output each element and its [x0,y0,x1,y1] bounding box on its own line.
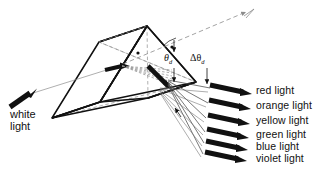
ray-arrow-blue [206,141,248,152]
ray-label-green: green light [256,128,306,140]
white-light-label: white light [10,108,36,133]
ray-arrow-orange [209,100,251,111]
dispersion-diagram: white light θd Δθd red light orange ligh… [0,0,320,182]
undeviated-ray-arrowhead [244,9,254,18]
ray-label-blue: blue light [256,140,299,152]
ray-arrow-green [207,129,249,140]
emerging-rays-group [160,80,252,163]
ray-label-orange: orange light [256,99,312,111]
theta-subscript: d [169,58,172,65]
deviation-angle-label: θd [164,52,172,65]
ray-arrow-violet [205,152,247,163]
incident-ray-line [30,67,116,94]
construction-dot-upper [136,51,139,54]
emerging-ray-line-violet [168,85,203,154]
ray-label-red: red light [256,84,294,96]
delta-theta-symbol: Δθ [190,52,201,63]
white-light-arrow-shaft [10,93,30,107]
white-light-label-line1: white [10,108,36,120]
white-light-label-line2: light [10,120,36,132]
angular-dispersion-label: Δθd [190,52,204,65]
ray-label-yellow: yellow light [256,114,309,126]
construction-dot-right [170,45,173,48]
delta-theta-subscript: d [201,58,204,65]
ray-label-violet: violet light [256,152,304,164]
ray-arrow-red [210,85,252,96]
ray-arrow-yellow [208,115,250,126]
